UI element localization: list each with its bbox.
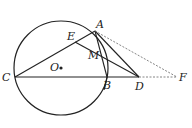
label-m: M [87, 49, 100, 62]
label-b: B [102, 79, 111, 92]
label-c: C [2, 71, 11, 84]
segment-ed [75, 42, 139, 77]
segment-af-dashed [95, 31, 177, 77]
label-f: F [178, 71, 187, 84]
center-dot [59, 66, 62, 69]
label-o: O [50, 61, 59, 74]
label-a: A [95, 18, 104, 31]
label-e: E [66, 30, 75, 43]
segment-ad [95, 31, 139, 77]
label-d: D [134, 80, 144, 93]
geometry-diagram: A B C D E F M O [0, 0, 192, 128]
